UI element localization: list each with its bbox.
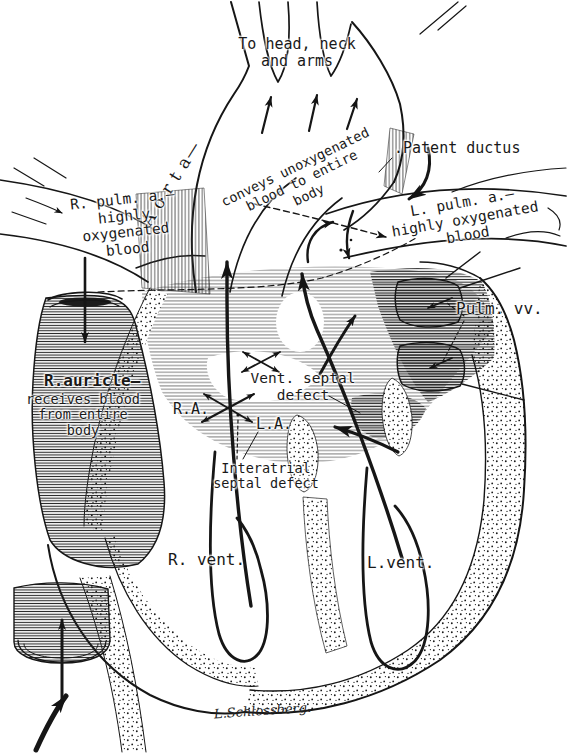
label-patent-ductus: .Patent ductus (394, 140, 520, 157)
label-right-atrium: R.A. (173, 401, 209, 418)
heart-defect-diagram: To head, neck and arms A o r t a— convey… (0, 0, 567, 753)
label-left-ventricle: L.vent. (367, 554, 434, 572)
label-right-auricle-description: receives blood from entire body (22, 392, 144, 438)
label-right-ventricle: R. vent. (168, 551, 245, 569)
inferior-vena-cava (14, 583, 110, 750)
label-interatrial-septal-defect: Interatrial septal defect (206, 461, 326, 492)
label-pulmonary-veins: Pulm. vv. (456, 300, 543, 318)
label-to-head-neck-arms: To head, neck and arms (232, 36, 362, 70)
ivc-bold-arrow (36, 696, 66, 750)
label-ventricular-septal-defect: Vent. septal defect (244, 370, 362, 403)
label-right-auricle: R.auricle— (44, 372, 140, 390)
label-left-atrium: L.A. (256, 416, 292, 433)
